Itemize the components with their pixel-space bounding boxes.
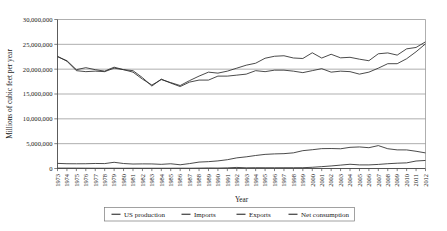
x-tick-label: 1982 xyxy=(139,174,146,187)
gridlines-group xyxy=(58,20,426,169)
gas-production-line-chart: 05,000,00010,000,00015,000,00020,000,000… xyxy=(0,0,447,231)
chart-legend: US productionImportsExportsNet consumpti… xyxy=(105,208,355,222)
x-tick-label: 1998 xyxy=(290,174,297,187)
x-tick-label: 2001 xyxy=(318,174,325,187)
legend-label-us-production[interactable]: US production xyxy=(124,211,166,219)
x-axis-title: Year xyxy=(235,196,249,204)
x-tick-label: 1977 xyxy=(92,173,99,187)
x-tick-label: 1983 xyxy=(148,174,155,187)
y-tick-label: 5,000,000 xyxy=(26,140,53,147)
x-tick-label: 1999 xyxy=(299,174,306,187)
x-tick-label: 1989 xyxy=(205,174,212,187)
x-tick-label: 1995 xyxy=(261,174,268,187)
x-tick-label: 1988 xyxy=(195,174,202,187)
series-lines-group xyxy=(58,42,426,168)
x-tick-label: 2004 xyxy=(346,173,353,187)
legend-label-net-consumption[interactable]: Net consumption xyxy=(301,211,350,219)
x-tick-label: 2009 xyxy=(393,174,400,187)
x-tick-label: 1975 xyxy=(73,174,80,187)
y-tick-label: 25,000,000 xyxy=(23,41,53,48)
x-tick-label: 1991 xyxy=(224,174,231,187)
series-line-exports xyxy=(58,160,426,168)
y-tick-label: 15,000,000 xyxy=(23,90,53,97)
series-line-net-consumption xyxy=(58,42,426,86)
x-tick-label: 1976 xyxy=(82,174,89,187)
x-tick-label: 1973 xyxy=(54,174,61,187)
x-tick-label: 2000 xyxy=(309,174,316,187)
x-tick-label: 2005 xyxy=(356,174,363,187)
x-tick-label: 1985 xyxy=(167,174,174,187)
x-tick-label: 2006 xyxy=(365,174,372,187)
x-tick-label: 1990 xyxy=(214,174,221,187)
y-tick-label: 20,000,000 xyxy=(23,66,53,73)
x-tick-label: 2002 xyxy=(327,174,334,187)
x-tick-label: 1987 xyxy=(186,173,193,187)
x-tick-label: 1997 xyxy=(280,173,287,187)
x-tick-label: 1996 xyxy=(271,174,278,187)
x-tick-label: 1980 xyxy=(120,174,127,187)
chart-container: 05,000,00010,000,00015,000,00020,000,000… xyxy=(0,0,447,231)
x-tick-label: 1981 xyxy=(129,174,136,187)
x-tick-label: 1986 xyxy=(176,174,183,187)
y-tick-label: 30,000,000 xyxy=(23,16,53,23)
x-tick-label: 1979 xyxy=(110,174,117,187)
x-tick-label: 1993 xyxy=(243,174,250,187)
y-tick-label: 0 xyxy=(49,165,53,172)
x-tick-label: 2007 xyxy=(375,173,382,187)
x-tick-label: 1984 xyxy=(158,173,165,187)
x-tick-label: 2010 xyxy=(403,174,410,187)
y-axis-ticks-group: 05,000,00010,000,00015,000,00020,000,000… xyxy=(23,16,58,172)
x-tick-label: 1974 xyxy=(63,173,70,187)
x-tick-label: 2011 xyxy=(412,174,419,187)
x-tick-label: 2012 xyxy=(422,174,429,187)
series-line-imports xyxy=(58,146,426,165)
x-tick-label: 2008 xyxy=(384,174,391,187)
legend-label-exports[interactable]: Exports xyxy=(249,211,271,219)
x-axis-ticks-group: 1973197419751976197719781979198019811982… xyxy=(54,169,429,187)
x-tick-label: 1992 xyxy=(233,174,240,187)
legend-label-imports[interactable]: Imports xyxy=(194,211,216,219)
x-tick-label: 1994 xyxy=(252,173,259,187)
series-line-us-production xyxy=(58,44,426,87)
y-axis-title: Millions of cubic feet per year xyxy=(5,49,14,139)
x-tick-label: 2003 xyxy=(337,174,344,187)
y-tick-label: 10,000,000 xyxy=(23,115,53,122)
x-tick-label: 1978 xyxy=(101,174,108,187)
